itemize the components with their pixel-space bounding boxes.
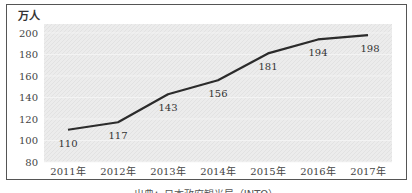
x-tick-label: 2017年 <box>350 165 385 177</box>
y-tick-label: 140 <box>19 92 38 103</box>
y-tick-label: 120 <box>19 114 38 125</box>
chart-caption: 出典：日本政府観光局（JNTO） <box>0 186 412 193</box>
data-label: 143 <box>158 102 177 113</box>
y-tick-label: 80 <box>25 157 38 168</box>
data-label: 156 <box>208 88 227 99</box>
line-chart: 80100120140160180200 2011年2012年2013年2014… <box>0 0 412 193</box>
y-tick-label: 160 <box>19 71 38 82</box>
y-unit-label: 万人 <box>17 9 41 23</box>
data-label: 110 <box>58 138 77 149</box>
y-tick-label: 180 <box>19 49 38 60</box>
x-tick-label: 2011年 <box>50 165 85 177</box>
x-tick-label: 2016年 <box>300 165 335 177</box>
data-label: 198 <box>360 43 379 54</box>
y-tick-label: 200 <box>19 28 38 39</box>
x-tick-label: 2012年 <box>100 165 135 177</box>
x-tick-label: 2015年 <box>250 165 285 177</box>
data-label: 117 <box>108 130 127 141</box>
data-label: 194 <box>308 47 327 58</box>
y-tick-label: 100 <box>19 135 38 146</box>
x-tick-label: 2014年 <box>200 165 235 177</box>
x-tick-label: 2013年 <box>150 165 185 177</box>
data-label: 181 <box>258 61 277 72</box>
